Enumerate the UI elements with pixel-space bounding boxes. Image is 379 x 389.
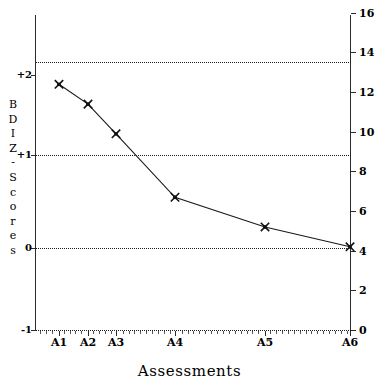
data-point-A2: [84, 100, 92, 108]
data-point-A1: [55, 80, 63, 88]
data-point-A3: [112, 130, 120, 138]
series-line-bdi: [59, 84, 350, 246]
series-layer: [0, 0, 379, 389]
data-point-A4: [171, 193, 179, 201]
data-point-A5: [261, 223, 269, 231]
chart-container: +2 +1 0 -1 16 14 12 10 8 6 4 2 0 A1 A2 A…: [0, 0, 379, 389]
data-point-A6: [346, 243, 354, 251]
series-markers: [55, 80, 354, 251]
